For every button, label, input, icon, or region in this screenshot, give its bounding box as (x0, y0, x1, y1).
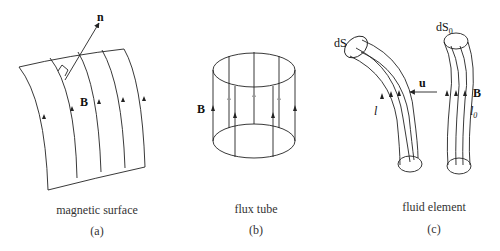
field-line-1 (50, 58, 77, 178)
field-label-b: B (197, 102, 205, 117)
field-label-a: B (80, 95, 88, 110)
surface-bottom-edge (48, 167, 145, 190)
area0-label: dS0 (436, 20, 453, 36)
normal-vector-label: n (97, 10, 104, 25)
field-label-c: B (473, 86, 481, 101)
flux-tube-figure (213, 52, 295, 158)
tube-bottom-ellipse (213, 124, 295, 158)
caption-c: fluid element (402, 200, 466, 215)
panel-label-b: (b) (249, 223, 263, 238)
right-tube-bottom-ellipse (447, 158, 471, 174)
length0-label: l0 (470, 104, 477, 120)
normal-vector-arrow (65, 23, 99, 80)
surface-right-edge (124, 49, 145, 167)
field-line-2 (78, 52, 101, 172)
field-arrowheads-c (380, 90, 467, 99)
fluid-element-figure (340, 32, 473, 174)
area-label: dS (334, 36, 347, 51)
velocity-label: u (419, 76, 426, 91)
caption-a: magnetic surface (56, 203, 138, 218)
surface-left-edge (19, 67, 48, 190)
panel-label-c: (c) (427, 222, 440, 237)
panel-label-a: (a) (90, 224, 103, 239)
length-label: l (374, 104, 377, 119)
left-tube-bottom-ellipse (398, 156, 422, 172)
field-line-3 (102, 50, 125, 168)
caption-b: flux tube (235, 202, 278, 217)
